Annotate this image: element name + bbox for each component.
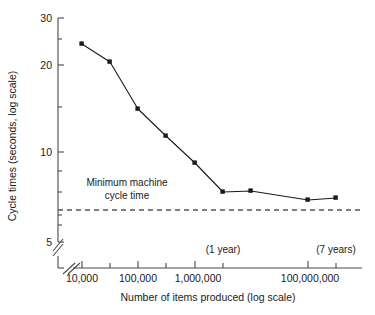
x-tick-label-10000: 10,000 [66,272,98,284]
data-point-marker [107,59,111,63]
data-point-marker [135,106,139,110]
reference-line-label-line2: cycle time [105,190,150,201]
annotation-one-year: (1 year) [206,244,240,255]
y-tick-label-20: 20 [40,59,52,71]
data-point-marker [192,160,196,164]
annotation-seven-years: (7 years) [316,244,355,255]
x-tick-label-100000: 100,000 [119,272,157,284]
data-point-marker [163,133,167,137]
x-tick-label-100000000: 100,000,000 [281,272,340,284]
data-point-marker [333,195,337,199]
y-tick-label-5: 5 [46,236,52,248]
data-point-marker [248,188,252,192]
reference-line-label-line1: Minimum machine [86,177,168,188]
data-point-marker [220,189,224,193]
x-tick-label-1000000: 1,000,000 [175,272,222,284]
data-point-marker [305,197,309,201]
x-axis-title: Number of items produced (log scale) [120,291,295,303]
y-axis-title: Cycle times (seconds, log scale) [6,71,18,222]
y-tick-label-10: 10 [40,146,52,158]
cycle-time-learning-curve-chart: 30 20 10 5 Cycle times (seconds, log sca… [0,0,375,315]
chart-figure: 30 20 10 5 Cycle times (seconds, log sca… [0,0,375,315]
data-point-marker [79,41,83,45]
y-tick-label-30: 30 [40,12,52,24]
